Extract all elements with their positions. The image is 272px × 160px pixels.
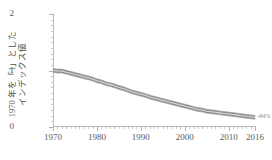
end-value-annotation: -84%: [257, 112, 270, 119]
chart-figure: 1970 年を「1」とした インデックス値 012197019801990200…: [0, 0, 272, 160]
series-band: [0, 0, 272, 160]
